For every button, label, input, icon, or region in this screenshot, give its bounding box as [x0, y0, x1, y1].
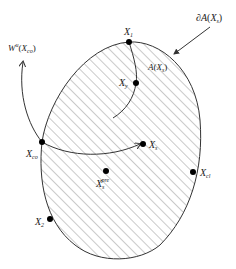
- point-xs-dot: [140, 141, 146, 147]
- unstable-manifold-up-arrow: [22, 62, 42, 142]
- point-xcl-label: Xcl: [199, 167, 211, 179]
- region-label: A(Xs): [147, 62, 167, 73]
- point-xy-dot: [133, 80, 139, 86]
- boundary-label: ∂A(Xs): [196, 12, 222, 24]
- point-x2-dot: [47, 216, 53, 222]
- point-xspre-dot: [103, 168, 109, 174]
- manifold-label: Wu(Xco): [8, 42, 36, 54]
- point-x1-label: X1: [123, 26, 133, 38]
- point-x2-label: X2: [34, 216, 44, 228]
- point-xcl-dot: [190, 169, 196, 175]
- region-of-attraction-diagram: ∂A(Xs) A(Xs) Wu(Xco) X1 Xy Xco Xs Xspre …: [0, 0, 236, 269]
- boundary-pointer-arrow: [174, 27, 210, 54]
- point-xco-dot: [39, 139, 45, 145]
- point-xco-label: Xco: [25, 148, 38, 160]
- point-x1-dot: [126, 39, 132, 45]
